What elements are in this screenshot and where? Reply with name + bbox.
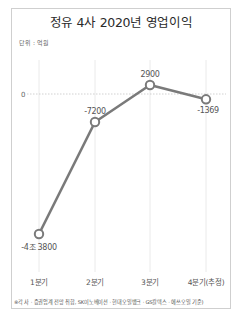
category-label: 1분기 bbox=[30, 278, 48, 287]
data-label: -1369 bbox=[197, 106, 219, 115]
data-label: -7200 bbox=[84, 107, 106, 116]
category-label: 2분기 bbox=[86, 278, 104, 287]
series-line bbox=[39, 85, 206, 234]
source-footnote: ※각 사 · 증권업계 전망 취합, SK이노베이션 · 현대오일뱅크 · GS… bbox=[14, 298, 203, 305]
data-point bbox=[91, 118, 99, 126]
data-label: 2900 bbox=[140, 70, 159, 79]
category-label: 4분기(추정) bbox=[188, 277, 225, 287]
category-label-layer: 1분기2분기3분기4분기(추정) bbox=[30, 277, 225, 287]
line-chart: 0 -4조 3800-72002900-1369 1분기2분기3분기4분기(추정… bbox=[0, 0, 238, 319]
category-label: 3분기 bbox=[141, 278, 159, 287]
data-point bbox=[146, 81, 154, 89]
data-label: -4조 3800 bbox=[21, 243, 57, 252]
series-line-layer bbox=[39, 85, 206, 234]
data-point bbox=[202, 95, 210, 103]
data-point bbox=[35, 230, 43, 238]
zero-axis-label: 0 bbox=[21, 91, 25, 99]
data-label-layer: -4조 3800-72002900-1369 bbox=[21, 70, 219, 252]
